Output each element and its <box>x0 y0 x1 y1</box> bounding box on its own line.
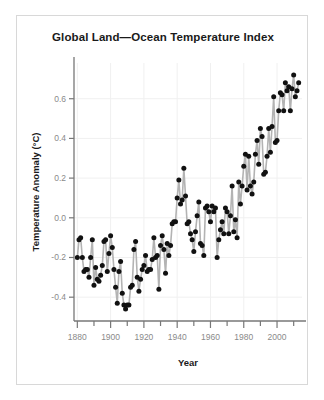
x-tick-label: 1980 <box>234 332 253 342</box>
gridlines <box>74 63 302 321</box>
y-axis-label: Temperature Anomaly (°C) <box>30 133 41 252</box>
temperature-anomaly-line-chart: -0.4-0.20.00.20.40.618801900192019401960… <box>17 16 309 386</box>
y-tick-label: -0.4 <box>51 292 66 302</box>
axes <box>69 57 306 328</box>
x-tick-label: 1900 <box>101 332 120 342</box>
x-tick-label: 2000 <box>268 332 287 342</box>
y-tick-label: -0.2 <box>51 252 66 262</box>
figure-frame: Global Land—Ocean Temperature Index -0.4… <box>16 15 308 385</box>
x-tick-label: 1960 <box>201 332 220 342</box>
y-tick-label: 0.4 <box>54 133 66 143</box>
x-tick-label: 1920 <box>134 332 153 342</box>
data-series-global-temperature-anomaly <box>75 72 301 311</box>
x-tick-label: 1940 <box>168 332 187 342</box>
x-tick-label: 1880 <box>68 332 87 342</box>
x-axis-label: Year <box>178 357 198 368</box>
y-tick-label: 0.0 <box>54 213 66 223</box>
y-tick-label: 0.2 <box>54 173 66 183</box>
y-tick-label: 0.6 <box>54 94 66 104</box>
